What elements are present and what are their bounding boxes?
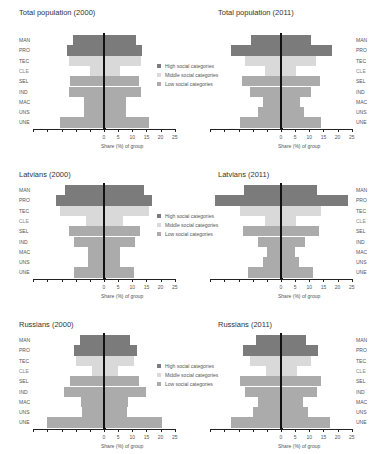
x-tick-label: 5 <box>288 284 302 290</box>
x-axis-tick <box>47 279 48 282</box>
bar-une-left <box>60 117 104 127</box>
x-axis-tick <box>309 429 310 432</box>
x-tick-label: 15 <box>139 134 153 140</box>
bar-mac-right <box>281 247 295 257</box>
x-axis-tick <box>47 429 48 432</box>
bar-ind-left <box>258 237 281 247</box>
x-tick-label: 0 <box>274 134 288 140</box>
x-axis-tick <box>281 429 282 432</box>
x-axis-tick <box>352 279 353 282</box>
bar-tec-right <box>281 206 321 216</box>
bar-tec-right <box>281 56 316 66</box>
x-axis-tick <box>210 429 211 432</box>
bar-pro-right <box>104 45 142 55</box>
x-tick-label: 5 <box>111 434 125 440</box>
bar-pro-left <box>231 45 281 55</box>
x-axis-tick <box>295 429 296 432</box>
x-axis-tick <box>118 429 119 432</box>
category-label: IND <box>356 389 380 395</box>
category-label: SEL <box>356 228 380 234</box>
middle-swatch-icon <box>157 73 161 77</box>
x-axis-tick <box>104 129 105 132</box>
bar-ind-right <box>104 87 141 97</box>
panel-title: Total population (2011) <box>218 8 294 17</box>
category-label: CLE <box>19 68 43 74</box>
category-label: TEC <box>356 358 380 364</box>
x-tick-label: 15 <box>316 434 330 440</box>
bar-sel-right <box>104 226 140 236</box>
panel-title: Russians (2000) <box>19 320 74 329</box>
x-axis-tick <box>175 129 176 132</box>
x-axis-label: Share (%) of group <box>278 143 320 149</box>
category-label: TEC <box>19 358 43 364</box>
bar-sel-right <box>281 76 320 86</box>
bar-une-left <box>47 417 104 427</box>
bar-tec-right <box>104 206 149 216</box>
x-axis-tick <box>267 429 268 432</box>
x-axis-tick <box>281 279 282 282</box>
category-label: UNS <box>19 109 43 115</box>
bar-ind-left <box>64 387 104 397</box>
category-label: UNE <box>356 119 380 125</box>
bar-ind-left <box>250 87 281 97</box>
category-label: CLE <box>356 218 380 224</box>
x-axis-tick <box>33 429 34 432</box>
x-axis-tick <box>295 279 296 282</box>
legend-label: High social categories <box>165 63 214 69</box>
bar-pro-right <box>281 345 318 355</box>
category-label: CLE <box>356 68 380 74</box>
legend-label: High social categories <box>165 363 214 369</box>
bar-man-right <box>281 335 306 345</box>
x-axis-label: Share (%) of group <box>278 293 320 299</box>
x-tick-label: 0 <box>97 434 111 440</box>
bar-mac-left <box>267 247 281 257</box>
x-axis-tick <box>146 429 147 432</box>
x-axis-tick <box>253 429 254 432</box>
category-label: UNS <box>356 409 380 415</box>
bar-man-left <box>73 35 104 45</box>
bar-ind-left <box>74 237 104 247</box>
bar-pro-right <box>104 345 137 355</box>
category-label: MAC <box>356 99 380 105</box>
x-axis-label: Share (%) of group <box>101 443 143 449</box>
legend-item: Low social categories <box>157 379 218 388</box>
panel-title: Latvians (2011) <box>218 170 269 179</box>
category-label: SEL <box>356 378 380 384</box>
center-line <box>280 183 281 279</box>
x-axis-label: Share (%) of group <box>278 443 320 449</box>
x-axis-tick <box>352 429 353 432</box>
x-axis-tick <box>161 279 162 282</box>
category-label: UNE <box>356 419 380 425</box>
x-axis-tick <box>132 129 133 132</box>
bar-cle-left <box>266 366 281 376</box>
bar-sel-left <box>70 376 104 386</box>
bar-une-right <box>104 417 162 427</box>
category-label: IND <box>19 239 43 245</box>
x-tick-label: 5 <box>111 284 125 290</box>
category-label: PRO <box>356 47 380 53</box>
panel-title: Latvians (2000) <box>19 170 71 179</box>
category-label: TEC <box>19 58 43 64</box>
bar-sel-left <box>240 376 281 386</box>
legend-label: Middle social categories <box>165 222 218 228</box>
legend-item: Middle social categories <box>157 370 218 379</box>
bar-une-right <box>281 117 321 127</box>
bar-man-right <box>281 185 317 195</box>
center-line <box>103 33 104 129</box>
category-label: UNE <box>19 269 43 275</box>
middle-swatch-icon <box>157 373 161 377</box>
bar-tec-right <box>281 356 311 366</box>
panel-title: Total population (2000) <box>19 8 95 17</box>
category-label: MAC <box>356 249 380 255</box>
x-axis-tick <box>47 129 48 132</box>
x-axis-tick <box>76 429 77 432</box>
legend-label: Middle social categories <box>165 372 218 378</box>
bar-mac-right <box>104 97 126 107</box>
category-label: TEC <box>356 58 380 64</box>
x-axis-tick <box>175 429 176 432</box>
bar-pro-left <box>56 195 104 205</box>
x-tick-label: 20 <box>154 134 168 140</box>
category-label: UNS <box>19 259 43 265</box>
x-axis-tick <box>253 279 254 282</box>
x-axis-tick <box>118 279 119 282</box>
